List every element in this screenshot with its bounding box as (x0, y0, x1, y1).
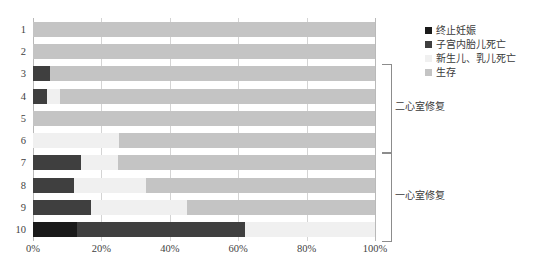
bar-row (33, 66, 375, 81)
y-axis-tick-label: 1 (21, 24, 26, 35)
y-axis-tick-label: 4 (21, 91, 26, 102)
legend-item: 子宫内胎儿死亡 (425, 38, 560, 51)
y-axis-tick-label: 7 (21, 157, 26, 168)
bar-segment (33, 155, 81, 170)
bar-segment (33, 111, 375, 126)
y-axis-tick-label: 10 (16, 224, 27, 235)
bar-segment (33, 44, 375, 59)
legend-swatch-icon (425, 69, 432, 76)
bar-segment (33, 89, 47, 104)
bar-segment (187, 200, 375, 215)
bar-row (33, 111, 375, 126)
bar-row (33, 222, 375, 237)
bar-segment (245, 222, 375, 237)
bar-segment (118, 155, 375, 170)
y-axis-tick-label: 3 (21, 68, 26, 79)
x-axis-tick-label: 0% (26, 243, 40, 255)
gridline-100 (375, 18, 376, 241)
legend-swatch-icon (425, 41, 432, 48)
legend-label: 新生儿、乳儿死亡 (436, 53, 516, 65)
bar-row (33, 178, 375, 193)
x-axis-tick-label: 40% (160, 243, 179, 255)
bar-row (33, 155, 375, 170)
group-bracket (382, 153, 392, 242)
x-axis-tick-label: 60% (229, 243, 248, 255)
y-axis-tick-label: 8 (21, 180, 26, 191)
bar-segment (33, 200, 91, 215)
bar-segment (119, 133, 376, 148)
legend-label: 子宫内胎儿死亡 (436, 39, 506, 51)
x-axis-tick-label: 80% (297, 243, 316, 255)
bar-segment (33, 178, 74, 193)
bar-row (33, 89, 375, 104)
bar-segment (33, 22, 375, 37)
plot-area (33, 18, 375, 241)
x-axis-tick-label: 20% (92, 243, 111, 255)
bar-segment (74, 178, 146, 193)
legend: 终止妊娠子宫内胎儿死亡新生儿、乳儿死亡生存 (425, 24, 560, 80)
stacked-bar-chart: 12345678910 0%20%40%60%80%100% 终止妊娠子宫内胎儿… (0, 0, 560, 272)
legend-label: 终止妊娠 (436, 25, 476, 37)
bar-rows (33, 18, 375, 241)
x-axis-tick-label: 100% (363, 243, 388, 255)
group-bracket (382, 64, 392, 153)
legend-item: 生存 (425, 66, 560, 79)
legend-label: 生存 (436, 67, 456, 79)
group-bracket-label: 二心室修复 (395, 101, 445, 113)
x-axis-labels: 0%20%40%60%80%100% (33, 243, 375, 257)
bar-segment (77, 222, 245, 237)
group-bracket-label: 一心室修复 (395, 190, 445, 202)
bar-segment (33, 66, 50, 81)
bar-row (33, 200, 375, 215)
bar-segment (91, 200, 187, 215)
legend-item: 新生儿、乳儿死亡 (425, 52, 560, 65)
bar-row (33, 44, 375, 59)
legend-swatch-icon (425, 55, 432, 62)
bar-segment (33, 133, 119, 148)
y-axis-tick-label: 6 (21, 135, 26, 146)
bar-segment (81, 155, 119, 170)
y-axis-labels: 12345678910 (0, 18, 30, 241)
bar-segment (50, 66, 375, 81)
legend-swatch-icon (425, 27, 432, 34)
legend-item: 终止妊娠 (425, 24, 560, 37)
bar-segment (33, 222, 77, 237)
bar-row (33, 133, 375, 148)
bar-segment (146, 178, 375, 193)
bar-segment (47, 89, 61, 104)
bar-segment (60, 89, 375, 104)
bar-row (33, 22, 375, 37)
y-axis-tick-label: 2 (21, 46, 26, 57)
y-axis-tick-label: 5 (21, 113, 26, 124)
y-axis-tick-label: 9 (21, 202, 26, 213)
